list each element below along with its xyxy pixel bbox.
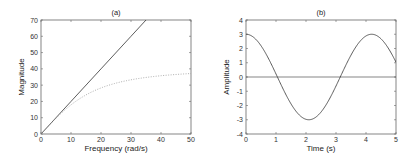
x-tick-label: 5 [394, 136, 398, 143]
plot-a: 01020304050010203040506070(a)Frequency (… [17, 8, 195, 153]
y-tick-label: -2 [237, 102, 243, 109]
y-axis-label: Amplitude [222, 59, 231, 95]
x-tick-label: 20 [97, 136, 105, 143]
y-tick-label: 30 [30, 82, 38, 89]
x-axis-label: Time (s) [306, 144, 335, 153]
chart-title: (b) [316, 8, 326, 17]
x-tick-label: 30 [127, 136, 135, 143]
y-tick-label: 50 [30, 49, 38, 56]
y-tick-label: -4 [237, 131, 243, 138]
x-tick-label: 40 [157, 136, 165, 143]
x-tick-label: 4 [364, 136, 368, 143]
x-tick-label: 0 [244, 136, 248, 143]
x-tick-label: 3 [334, 136, 338, 143]
y-axis-label: Magnitude [17, 58, 26, 96]
y-tick-label: -1 [237, 88, 243, 95]
x-tick-label: 10 [67, 136, 75, 143]
x-axis-label: Frequency (rad/s) [84, 144, 147, 153]
axes-frame [41, 20, 191, 134]
series-dotted [41, 74, 191, 134]
y-tick-label: 1 [239, 59, 243, 66]
y-tick-label: -3 [237, 116, 243, 123]
y-tick-label: 10 [30, 114, 38, 121]
y-tick-label: 70 [30, 17, 38, 24]
x-tick-label: 1 [274, 136, 278, 143]
y-tick-label: 40 [30, 65, 38, 72]
y-tick-label: 2 [239, 45, 243, 52]
y-tick-label: 4 [239, 17, 243, 24]
y-tick-label: 0 [34, 131, 38, 138]
plot-b: 012345-4-3-2-101234(b)Time (s)Amplitude [222, 8, 398, 153]
y-tick-label: 20 [30, 98, 38, 105]
x-tick-label: 50 [187, 136, 195, 143]
x-tick-label: 2 [304, 136, 308, 143]
x-tick-label: 0 [39, 136, 43, 143]
series-solid [41, 20, 146, 134]
y-tick-label: 60 [30, 33, 38, 40]
y-tick-label: 0 [239, 74, 243, 81]
figure: 01020304050010203040506070(a)Frequency (… [0, 0, 414, 159]
y-tick-label: 3 [239, 31, 243, 38]
chart-title: (a) [111, 8, 121, 17]
